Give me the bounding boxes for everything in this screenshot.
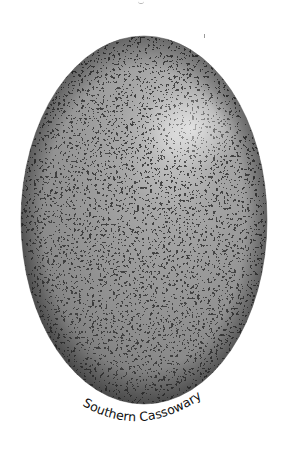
stray-mark: [204, 34, 205, 38]
shell-rim-shading: [21, 36, 267, 404]
egg-illustration-canvas: Southern Cassowary: [0, 0, 287, 453]
egg-drawing: Southern Cassowary: [0, 0, 287, 453]
